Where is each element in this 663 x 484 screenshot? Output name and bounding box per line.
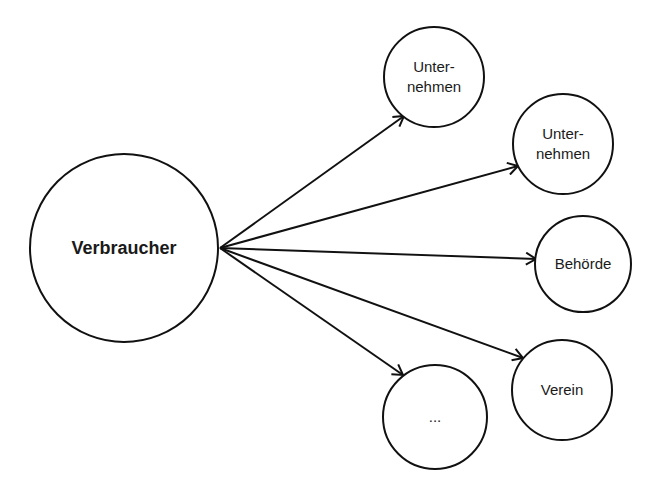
node-circle [384, 27, 484, 127]
node-more[interactable]: ... [383, 365, 487, 469]
node-unternehmen-2[interactable]: Unter-nehmen [513, 94, 613, 194]
node-label: ... [429, 408, 442, 425]
arrow-to-verein [220, 248, 523, 358]
node-behoerde[interactable]: Behörde [535, 216, 631, 312]
arrow-to-more [220, 248, 403, 375]
arrows [220, 116, 536, 375]
node-label: Verbraucher [71, 238, 176, 258]
node-label: nehmen [536, 145, 590, 162]
node-label: Behörde [555, 255, 612, 272]
node-unternehmen-1[interactable]: Unter-nehmen [384, 27, 484, 127]
node-label: Unter- [542, 125, 584, 142]
node-verein[interactable]: Verein [512, 340, 612, 440]
node-label: Verein [541, 381, 584, 398]
nodes: VerbraucherUnter-nehmenUnter-nehmenBehör… [30, 27, 631, 469]
arrow-to-unternehmen-2 [220, 166, 518, 248]
node-label: Unter- [413, 58, 455, 75]
arrow-to-behoerde [220, 248, 536, 259]
arrow-to-unternehmen-1 [220, 116, 404, 248]
node-circle [513, 94, 613, 194]
consumer-relations-diagram: VerbraucherUnter-nehmenUnter-nehmenBehör… [0, 0, 663, 484]
node-verbraucher[interactable]: Verbraucher [30, 154, 218, 342]
node-label: nehmen [407, 78, 461, 95]
